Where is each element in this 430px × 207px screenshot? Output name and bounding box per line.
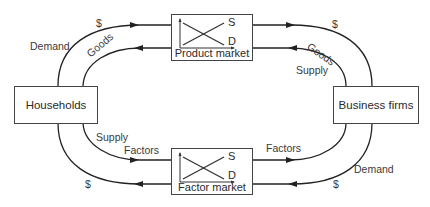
arrowhead-right-icon <box>286 22 295 28</box>
factors-flow-label: Factors <box>124 144 159 156</box>
households-node: Households <box>14 86 98 124</box>
supply-label: Supply <box>96 131 128 143</box>
flow-top-right-outer <box>252 25 372 86</box>
product-market-label: Product market <box>172 47 252 59</box>
demand-label: Demand <box>30 40 70 52</box>
circular-flow-diagram: Households Business firms S D Product ma… <box>0 0 430 207</box>
demand-label: Demand <box>354 163 394 175</box>
flow-top-left-outer <box>58 25 171 86</box>
demand-curve-label: D <box>228 170 236 181</box>
money-flow-label: $ <box>333 178 339 190</box>
households-label: Households <box>26 99 87 111</box>
supply-curve-label: S <box>228 17 235 28</box>
supply-label: Supply <box>296 64 328 76</box>
money-flow-label: $ <box>96 17 102 29</box>
factor-market-label: Factor market <box>172 181 252 193</box>
money-flow-label: $ <box>332 18 338 30</box>
demand-curve-label: D <box>228 36 236 47</box>
business-firms-node: Business firms <box>333 86 419 124</box>
business-firms-label: Business firms <box>339 99 414 111</box>
arrowhead-left-icon <box>288 181 297 187</box>
arrowhead-left-icon <box>134 181 143 187</box>
arrowhead-left-icon <box>288 45 297 51</box>
factors-flow-label: Factors <box>266 142 301 154</box>
product-market-node: S D Product market <box>171 14 253 61</box>
arrowhead-right-icon <box>286 157 295 163</box>
arrowhead-left-icon <box>134 45 143 51</box>
arrowhead-right-icon <box>130 157 139 163</box>
factor-market-node: S D Factor market <box>171 148 253 195</box>
arrowhead-right-icon <box>130 22 139 28</box>
money-flow-label: $ <box>85 178 91 190</box>
supply-curve-label: S <box>228 151 235 162</box>
